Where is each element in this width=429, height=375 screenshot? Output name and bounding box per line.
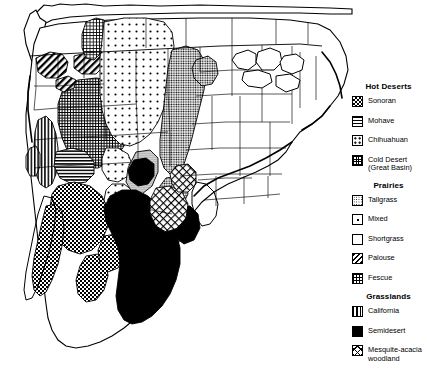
legend-label: Tallgrass: [368, 195, 397, 204]
legend-item-shortgrass[interactable]: Shortgrass: [352, 234, 429, 245]
legend-label: Fescue: [368, 273, 392, 282]
legend-group-grasslands: Grasslands California Semidesert Mesquit…: [352, 292, 429, 363]
map-figure: Hot Deserts Sonoran Mohave Chihuahuan Co…: [0, 0, 429, 375]
legend-label: California: [368, 306, 399, 315]
legend-group-title: Grasslands: [352, 292, 429, 301]
legend-item-fescue[interactable]: Fescue: [352, 273, 429, 284]
legend-label: Semidesert: [368, 326, 405, 335]
legend-item-mesquite-acacia[interactable]: Mesquite-acacia woodland: [352, 345, 429, 363]
swatch-tallgrass-icon: [352, 195, 363, 206]
legend-item-semidesert[interactable]: Semidesert: [352, 326, 429, 337]
legend-group-hot-deserts: Hot Deserts Sonoran Mohave Chihuahuan Co…: [352, 82, 429, 172]
legend-item-mohave[interactable]: Mohave: [352, 116, 429, 127]
legend-label: Mixed: [368, 214, 388, 223]
legend-label: Palouse: [368, 253, 395, 262]
swatch-california-icon: [352, 306, 363, 317]
swatch-palouse-icon: [352, 253, 363, 264]
legend-item-sonoran[interactable]: Sonoran: [352, 96, 429, 107]
legend-group-prairies: Prairies Tallgrass Mixed Shortgrass Palo…: [352, 181, 429, 284]
swatch-sonoran-icon: [352, 96, 363, 107]
legend-group-title: Prairies: [352, 181, 429, 190]
legend-item-cold-desert[interactable]: Cold Desert (Great Basin): [352, 155, 429, 173]
swatch-mohave-icon: [352, 116, 363, 127]
swatch-shortgrass-icon: [352, 234, 363, 245]
legend-item-california[interactable]: California: [352, 306, 429, 317]
legend-label: Shortgrass: [368, 234, 404, 243]
legend-label: Sonoran: [368, 96, 396, 105]
legend-item-chihuahuan[interactable]: Chihuahuan: [352, 135, 429, 146]
swatch-mesquite-acacia-icon: [352, 345, 363, 356]
swatch-semidesert-icon: [352, 326, 363, 337]
swatch-cold-desert-icon: [352, 155, 363, 166]
legend-label: Mohave: [368, 116, 394, 125]
legend-label: Mesquite-acacia woodland: [368, 345, 422, 363]
legend-item-palouse[interactable]: Palouse: [352, 253, 429, 264]
legend-label: Chihuahuan: [368, 135, 408, 144]
legend-label: Cold Desert (Great Basin): [368, 155, 412, 173]
legend-item-mixed[interactable]: Mixed: [352, 214, 429, 225]
legend-item-tallgrass[interactable]: Tallgrass: [352, 195, 429, 206]
legend-group-title: Hot Deserts: [352, 82, 429, 91]
swatch-fescue-icon: [352, 273, 363, 284]
swatch-mixed-icon: [352, 214, 363, 225]
map-legend: Hot Deserts Sonoran Mohave Chihuahuan Co…: [352, 82, 429, 372]
swatch-chihuahuan-icon: [352, 135, 363, 146]
